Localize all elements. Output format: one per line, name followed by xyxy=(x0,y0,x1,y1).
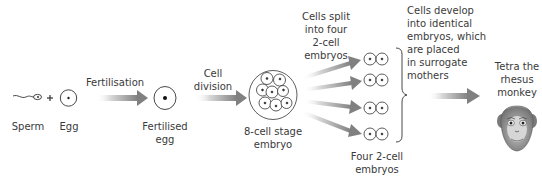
develop-label: Cells develop into identical embryos, wh… xyxy=(407,4,487,82)
cell-division-label: Cell division xyxy=(190,67,236,93)
eight-cell-label-line-1: 8-cell stage xyxy=(238,125,308,138)
plus-icon xyxy=(47,95,53,101)
two-cell-embryos xyxy=(364,53,388,140)
split-label-line-3: 2-cell xyxy=(294,36,358,49)
fertilisation-label: Fertilisation xyxy=(80,76,150,89)
eight-cell-label-line-2: embryo xyxy=(238,138,308,151)
eight-cell-label: 8-cell stage embryo xyxy=(238,125,308,151)
develop-label-line-2: into identical xyxy=(407,17,487,30)
cell-division-label-line-2: division xyxy=(190,80,236,93)
sperm-label: Sperm xyxy=(10,120,46,133)
cell-division-label-line-1: Cell xyxy=(190,67,236,80)
develop-label-line-6: mothers xyxy=(407,69,487,82)
develop-label-line-5: in surrogate xyxy=(407,56,487,69)
two-cell-embryo-3 xyxy=(364,102,388,114)
sperm-icon xyxy=(13,94,42,99)
monkey-label-line-1: Tetra the xyxy=(490,60,542,73)
split-label-line-4: embryos xyxy=(294,49,358,62)
two-cell-group-label-line-2: embryos xyxy=(340,163,414,176)
egg-label: Egg xyxy=(55,120,83,133)
split-label-line-2: into four xyxy=(294,23,358,36)
split-label-line-1: Cells split xyxy=(294,10,358,23)
develop-label-line-1: Cells develop xyxy=(407,4,487,17)
two-cell-embryo-4 xyxy=(364,128,388,140)
develop-label-line-4: are placed xyxy=(407,43,487,56)
split-arrows xyxy=(301,56,362,137)
develop-label-line-3: embryos, which xyxy=(407,30,487,43)
fertilised-egg-label-line-2: egg xyxy=(135,133,195,146)
monkey-label: Tetra the rhesus monkey xyxy=(490,60,542,99)
develop-arrow xyxy=(428,88,480,104)
split-arrow-3 xyxy=(303,99,362,114)
monkey-label-line-2: rhesus xyxy=(490,73,542,86)
two-cell-group-label-line-1: Four 2-cell xyxy=(340,150,414,163)
fertilised-egg-label: Fertilised egg xyxy=(135,120,195,146)
fertilised-egg-label-line-1: Fertilised xyxy=(135,120,195,133)
curly-brace xyxy=(396,48,407,142)
rhesus-monkey-face-icon xyxy=(497,106,537,151)
fertilisation-arrow xyxy=(96,90,148,106)
fertilised-egg-icon xyxy=(154,87,176,110)
eight-cell-embryo-icon xyxy=(249,71,297,120)
two-cell-group-label: Four 2-cell embryos xyxy=(340,150,414,176)
two-cell-embryo-1 xyxy=(364,53,388,65)
split-arrow-4 xyxy=(301,110,362,137)
egg-cell-icon xyxy=(60,90,76,106)
monkey-label-line-3: monkey xyxy=(490,86,542,99)
split-label: Cells split into four 2-cell embryos xyxy=(294,10,358,62)
split-arrow-2 xyxy=(303,76,362,92)
two-cell-embryo-2 xyxy=(364,74,388,86)
